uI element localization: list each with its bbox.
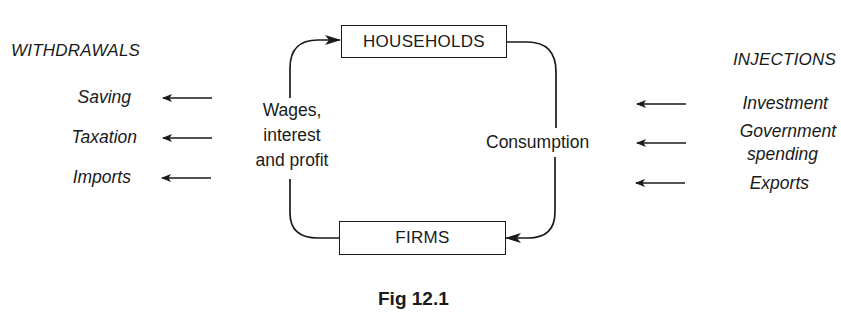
- withdrawal-saving: Saving: [30, 86, 131, 108]
- government-line-2: spending: [700, 143, 836, 166]
- government-line-1: Government: [700, 120, 836, 143]
- households-box: HOUSEHOLDS: [341, 25, 507, 58]
- figure-caption: Fig 12.1: [378, 288, 449, 310]
- injection-exports: Exports: [700, 172, 809, 194]
- withdrawal-imports: Imports: [30, 166, 131, 188]
- withdrawals-heading: WITHDRAWALS: [11, 40, 140, 62]
- firms-box: FIRMS: [339, 221, 506, 255]
- circular-flow-diagram: HOUSEHOLDS FIRMS Wages, interest and pro…: [0, 0, 841, 316]
- firms-label: FIRMS: [395, 228, 449, 248]
- injections-heading: INJECTIONS: [700, 49, 836, 71]
- wages-line-1: Wages,: [236, 98, 348, 123]
- wages-flow-label: Wages, interest and profit: [236, 98, 348, 173]
- injection-investment: Investment: [700, 92, 828, 114]
- injection-government-spending: Government spending: [700, 120, 836, 166]
- households-label: HOUSEHOLDS: [363, 32, 485, 52]
- injection-arrows: [636, 104, 686, 183]
- consumption-flow-label: Consumption: [486, 131, 589, 153]
- withdrawal-taxation: Taxation: [30, 126, 137, 148]
- wages-line-3: and profit: [236, 148, 348, 173]
- withdrawal-arrows: [162, 98, 212, 178]
- wages-line-2: interest: [236, 123, 348, 148]
